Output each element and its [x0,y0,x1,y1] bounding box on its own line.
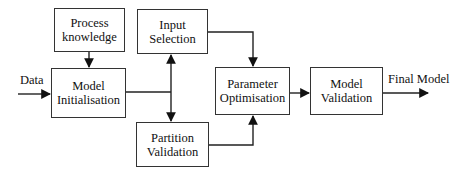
node-line: knowledge [62,30,117,44]
process-knowledge-node: Process knowledge [54,8,125,52]
node-line: Parameter [220,77,285,91]
node-line: Model [321,77,372,91]
node-line: Validation [147,145,198,159]
node-line: Initialisation [57,93,120,107]
node-line: Process [62,16,117,30]
edge-input-selection-to-param-opt [208,32,253,66]
node-line: Validation [321,91,372,105]
data-input-label: Data [20,73,44,88]
parameter-optimisation-node: Parameter Optimisation [215,67,290,115]
final-model-output-label: Final Model [388,72,449,87]
node-line: Optimisation [220,91,285,105]
node-line: Model [57,79,120,93]
node-line: Selection [149,32,196,46]
model-validation-node: Model Validation [310,67,383,115]
model-initialisation-node: Model Initialisation [51,68,126,118]
node-line: Input [149,18,196,32]
partition-validation-node: Partition Validation [136,122,209,167]
node-line: Partition [147,131,198,145]
input-selection-node: Input Selection [137,9,208,54]
edge-partition-validation-to-param-opt [209,116,253,145]
